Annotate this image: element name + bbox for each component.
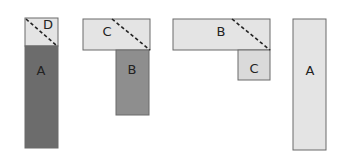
piece-label-a: A [306,63,315,78]
piece-a-rect [25,46,58,148]
piece-a-rect [293,19,326,150]
figure-4: A [293,19,326,150]
piece-label-c: C [249,61,258,76]
piece-b-rect [116,50,149,115]
rectangle-rearrangement-diagram: DACBBCA [0,0,344,164]
piece-label-a: A [37,63,46,78]
piece-label-c: C [102,24,111,39]
piece-label-d: D [43,17,53,32]
figure-3: BC [173,19,270,80]
piece-label-b: B [128,62,137,77]
figure-2: CB [83,19,150,115]
piece-label-b: B [217,24,226,39]
figure-1: DA [25,17,58,149]
